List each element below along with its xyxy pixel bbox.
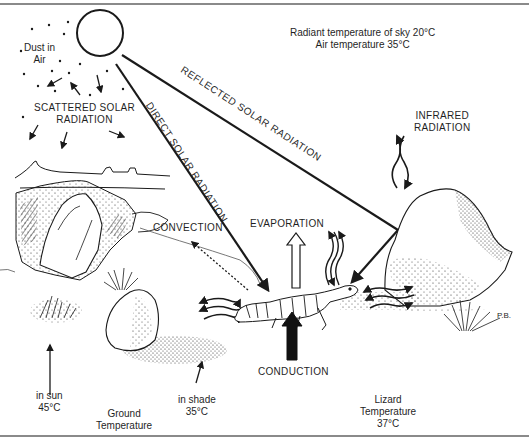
reflected-solar-ray [122, 55, 398, 282]
shrub-left [30, 296, 82, 323]
lizard-label-line1: Lizard [360, 394, 416, 406]
right-boulder [340, 189, 512, 312]
evaporation-label: EVAPORATION [250, 218, 324, 230]
ground-shade-arrow [196, 362, 202, 383]
sky-label-line1: Radiant temperature of sky 20°C [290, 27, 435, 39]
dust-label: Dust in Air [24, 42, 55, 66]
in-shade-label: in shade 35°C [178, 394, 216, 418]
scattered-label-line1: SCATTERED SOLAR [34, 102, 135, 114]
in-sun-label: in sun 45°C [36, 390, 63, 414]
diagram-frame: Dust in Air SCATTERED SOLAR RADIATION Ra… [0, 0, 529, 442]
shade-boulder [106, 290, 227, 364]
left-rock-formation [16, 181, 168, 280]
evaporation-arrow [287, 233, 305, 288]
ground-label-line1: Ground [96, 408, 152, 420]
shrub-middle [104, 268, 138, 290]
sky-label-line2: Air temperature 35°C [290, 39, 435, 51]
sun-icon [77, 10, 123, 56]
sky-temperature-label: Radiant temperature of sky 20°C Air temp… [290, 27, 435, 51]
infrared-label-line1: INFRARED [414, 110, 470, 122]
lizard-label-line2: Temperature [360, 406, 416, 418]
scattered-radiation-label: SCATTERED SOLAR RADIATION [34, 102, 135, 126]
scattered-label-line2: RADIATION [34, 114, 135, 126]
in-shade-label-line1: in shade [178, 394, 216, 406]
convection-label: CONVECTION [153, 222, 223, 234]
conduction-label: CONDUCTION [258, 366, 329, 378]
in-shade-label-line2: 35°C [178, 406, 216, 418]
dust-label-line1: Dust in [24, 42, 55, 54]
infrared-label-line2: RADIATION [414, 122, 470, 134]
infrared-radiation-label: INFRARED RADIATION [414, 110, 470, 134]
lizard-temperature-label: Lizard Temperature 37°C [360, 394, 416, 430]
ground-label-line2: Temperature [96, 420, 152, 432]
artist-signature: P.B. [497, 310, 511, 322]
dust-label-line2: Air [24, 54, 55, 66]
lizard-label-line3: 37°C [360, 418, 416, 430]
in-sun-label-line1: in sun [36, 390, 63, 402]
ground-temperature-label: Ground Temperature [96, 408, 152, 432]
lizard-infrared-arrows [326, 232, 344, 285]
in-sun-label-line2: 45°C [36, 402, 63, 414]
infrared-radiation-arrows [392, 136, 408, 188]
